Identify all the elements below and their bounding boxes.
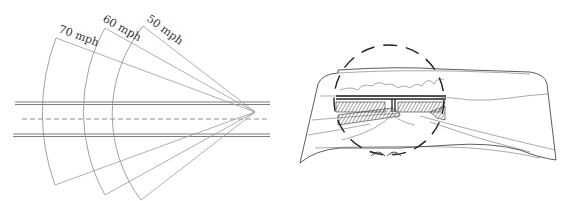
cone-70mph [42, 38, 255, 185]
focus-circle [334, 45, 444, 155]
dashboard-gauges-icon [371, 152, 401, 156]
cone-60mph [83, 28, 255, 195]
label-60mph: 60 mph [101, 12, 144, 44]
bridge [336, 96, 446, 125]
road [13, 102, 270, 137]
label-70mph: 70 mph [57, 23, 101, 50]
windshield-view [300, 45, 556, 163]
clouds [340, 79, 444, 90]
cone-50mph [112, 26, 255, 200]
vision-cone-diagram: 70 mph 60 mph 50 mph [13, 12, 270, 200]
diagram-canvas: 70 mph 60 mph 50 mph [0, 0, 568, 201]
